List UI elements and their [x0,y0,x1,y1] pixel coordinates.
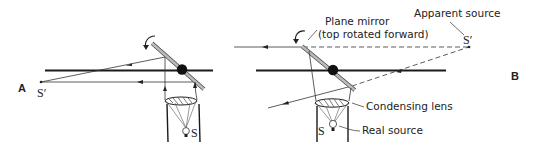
lens-leader [352,103,364,107]
rotation-arrowhead-icon [143,45,149,50]
mirror-caption-line1: Plane mirror [325,15,390,27]
condensing-lens [315,99,349,107]
panel-b-label: B [511,70,519,82]
panel-a: A S′ [18,36,213,142]
real-source-label: S [318,124,325,138]
ray-arrow-icon [282,101,289,105]
housing-wall-right [199,104,200,142]
real-source-label: S [191,126,198,140]
light-bulb-icon [183,128,190,137]
apparent-source-leader [450,22,464,35]
light-bulb-icon [329,120,336,131]
housing-wall-left [167,104,168,142]
optics-diagram: A S′ [0,0,536,148]
apparent-source-caption: Apparent source [414,7,500,19]
incident-ray-right [349,88,351,101]
panel-b: B S′ Apparent source Plane mirror (top r… [234,7,519,142]
pivot-point [328,65,338,75]
mirror-leader [308,30,317,40]
lens-caption: Condensing lens [366,100,453,112]
apparent-source-label: S′ [463,33,473,47]
ray-arrow-icon [137,80,143,84]
real-source-leader [339,126,360,131]
panel-a-label: A [18,82,26,94]
ray-arrow-icon [262,45,268,49]
apparent-source-label: S′ [37,86,47,100]
mirror-caption-line2: (top rotated forward) [318,28,429,40]
apparent-source-point [40,81,43,84]
virtual-ray-lower [352,47,469,86]
rotation-arrowhead-icon [293,39,299,44]
condensing-lens [165,97,197,105]
pivot-point [177,64,187,74]
real-source-caption: Real source [362,124,423,136]
ray-arrow-icon [163,86,167,91]
